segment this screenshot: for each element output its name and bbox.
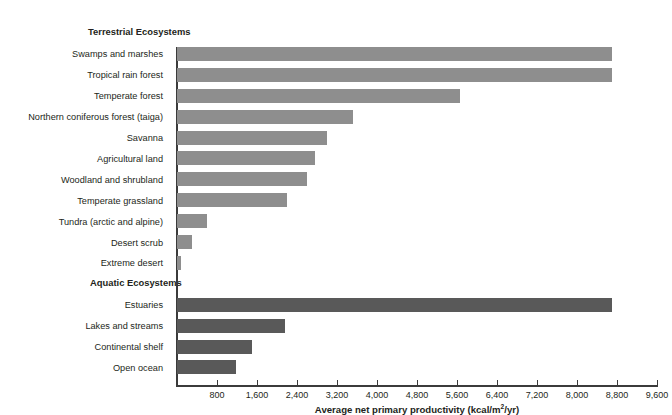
bar	[177, 319, 285, 333]
x-axis-tick-label: 4,800	[395, 390, 439, 400]
x-axis-tick	[457, 380, 458, 385]
x-axis-tick-label: 8,800	[595, 390, 639, 400]
x-axis-tick-label: 6,400	[475, 390, 519, 400]
x-axis-tick-label: 2,400	[275, 390, 319, 400]
x-axis-tick	[577, 380, 578, 385]
x-axis-tick	[657, 380, 658, 385]
x-axis-tick	[497, 380, 498, 385]
category-label: Tropical rain forest	[0, 70, 163, 80]
x-axis-tick-label: 9,600	[635, 390, 672, 400]
x-axis-tick-label: 8,000	[555, 390, 599, 400]
x-axis-tick-label: 4,000	[355, 390, 399, 400]
bar	[177, 298, 612, 312]
x-axis-tick	[377, 380, 378, 385]
bar	[177, 47, 612, 61]
category-label: Temperate grassland	[0, 196, 163, 206]
x-axis-tick	[537, 380, 538, 385]
category-label: Swamps and marshes	[0, 49, 163, 59]
x-axis-tick-label: 1,600	[235, 390, 279, 400]
bar	[177, 193, 287, 207]
x-axis-tick-label: 800	[195, 390, 239, 400]
bar	[177, 110, 353, 124]
bar	[177, 89, 460, 103]
plot-area: 8001,6002,4003,2004,0004,8005,6006,4007,…	[177, 0, 672, 408]
x-axis-tick	[217, 380, 218, 385]
bar	[177, 214, 207, 228]
x-axis-title: Average net primary productivity (kcal/m…	[177, 404, 657, 415]
bar	[177, 256, 181, 270]
x-axis-line	[176, 385, 658, 387]
category-label: Tundra (arctic and alpine)	[0, 217, 163, 227]
category-label: Lakes and streams	[0, 321, 163, 331]
category-label: Temperate forest	[0, 91, 163, 101]
category-label: Extreme desert	[0, 258, 163, 268]
bar	[177, 340, 252, 354]
bar	[177, 131, 327, 145]
category-label: Estuaries	[0, 300, 163, 310]
category-label: Agricultural land	[0, 154, 163, 164]
bar	[177, 360, 236, 374]
category-label: Savanna	[0, 133, 163, 143]
category-label: Desert scrub	[0, 238, 163, 248]
x-axis-tick	[257, 380, 258, 385]
x-axis-tick-label: 5,600	[435, 390, 479, 400]
bar	[177, 151, 315, 165]
category-label: Open ocean	[0, 363, 163, 373]
x-axis-tick	[297, 380, 298, 385]
section-heading-terrestrial: Terrestrial Ecosystems	[88, 27, 191, 37]
category-label-column: Terrestrial EcosystemsSwamps and marshes…	[0, 0, 172, 408]
x-axis-tick-label: 3,200	[315, 390, 359, 400]
x-axis-tick-label: 7,200	[515, 390, 559, 400]
section-heading-aquatic: Aquatic Ecosystems	[90, 278, 182, 288]
x-axis-tick	[417, 380, 418, 385]
bar	[177, 68, 612, 82]
bar	[177, 235, 192, 249]
axis-title-superscript: 2	[501, 403, 505, 410]
x-axis-tick	[617, 380, 618, 385]
x-axis-tick	[337, 380, 338, 385]
category-label: Continental shelf	[0, 342, 163, 352]
category-label: Woodland and shrubland	[0, 175, 163, 185]
bar	[177, 172, 307, 186]
category-label: Northern coniferous forest (taiga)	[0, 112, 163, 122]
